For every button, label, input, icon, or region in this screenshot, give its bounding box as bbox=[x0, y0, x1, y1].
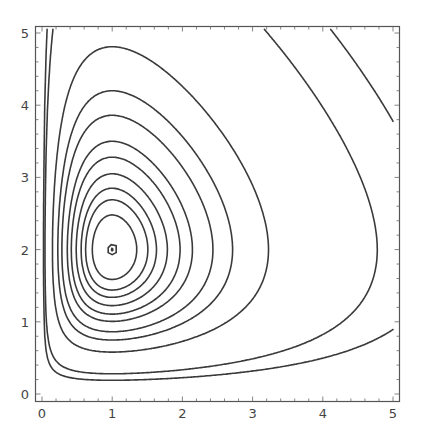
x-tick-label-5: 5 bbox=[389, 406, 397, 421]
x-tick-label-1: 1 bbox=[108, 406, 116, 421]
y-tick-label-2: 2 bbox=[21, 243, 29, 258]
contour-line-10 bbox=[45, 29, 377, 373]
plot-frame bbox=[36, 27, 400, 402]
x-axis-tick-labels: 012345 bbox=[38, 406, 397, 421]
contour-line-1 bbox=[92, 215, 136, 280]
x-tick-label-4: 4 bbox=[319, 406, 327, 421]
contour-line-6 bbox=[67, 141, 192, 321]
y-tick-label-1: 1 bbox=[21, 315, 29, 330]
y-tick-label-4: 4 bbox=[21, 98, 29, 113]
x-tick-label-3: 3 bbox=[248, 406, 256, 421]
y-tick-label-0: 0 bbox=[21, 387, 29, 402]
axis-ticks bbox=[36, 27, 400, 402]
y-tick-label-5: 5 bbox=[21, 26, 29, 41]
y-tick-label-3: 3 bbox=[21, 170, 29, 185]
y-axis-tick-labels: 012345 bbox=[21, 26, 29, 402]
x-tick-label-0: 0 bbox=[38, 406, 46, 421]
contour-lines bbox=[44, 29, 394, 380]
x-tick-label-2: 2 bbox=[178, 406, 186, 421]
contour-line-0 bbox=[112, 248, 113, 251]
contour-plot: 012345 012345 bbox=[0, 0, 426, 444]
contour-line-5 bbox=[71, 157, 180, 314]
